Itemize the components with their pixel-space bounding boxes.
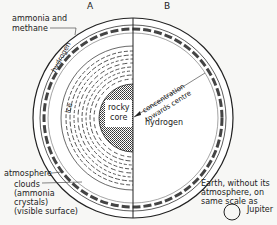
label-atmosphere: atmosphere [4,169,52,178]
label-ammonia: ammonia and [12,14,67,23]
earth-scale-circle [224,204,240,220]
label-rocky: rocky [108,103,130,112]
label-hydrogen-inner: hydrogen [145,118,183,127]
section-label-a: A [87,2,93,11]
label-clouds: clouds [14,180,40,189]
section-label-b: B [164,2,170,11]
label-clouds-ammonia: (ammonia [14,189,55,198]
label-earth-2: atmosphere, on [201,188,264,197]
label-earth-jupiter: Jupiter [247,205,273,214]
label-methane: methane [12,24,48,33]
label-core: core [110,113,127,122]
label-clouds-crystals: crystals) [14,198,48,207]
label-visible-surface: (visible surface) [14,207,78,216]
label-earth-1: Earth, without its [201,179,270,188]
